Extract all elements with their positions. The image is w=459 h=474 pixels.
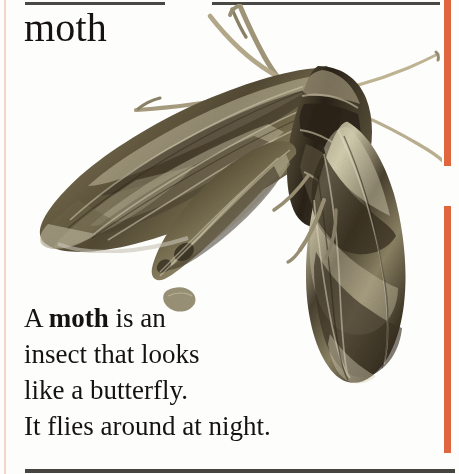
bottom-rule [25,469,455,473]
left-forewing-pattern [40,76,326,249]
definition-line-4: It flies around at night. [24,408,324,444]
right-margin-stripe-lower [444,206,451,453]
top-rule-right [212,2,440,5]
moth-body [287,66,372,227]
right-margin-stripe-upper [444,0,451,166]
definition-line-1-post: is an [109,303,166,333]
legs-group [274,176,336,262]
middle-wing [152,141,296,280]
left-forewing [40,68,350,252]
definition-headword-bold: moth [49,303,109,333]
dictionary-page: moth A moth is an insect that looks like… [0,0,459,474]
definition-line-1: A moth is an [24,300,324,336]
definition-line-3: like a butterfly. [24,372,324,408]
antennae-group [136,6,442,162]
body-pattern [300,70,361,220]
left-margin-stripe [4,0,6,474]
definition-text: A moth is an insect that looks like a bu… [24,300,324,444]
page-title: moth [24,8,107,48]
definition-line-1-pre: A [24,303,49,333]
wing-shadow [58,238,188,252]
middle-wing-pattern [154,150,290,276]
definition-line-2: insect that looks [24,336,324,372]
